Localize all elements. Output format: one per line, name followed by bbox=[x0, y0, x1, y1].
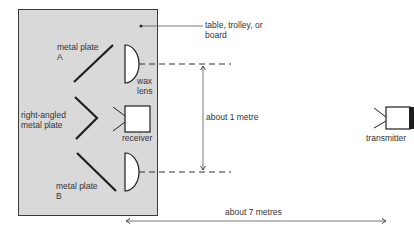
transmitter-label: transmitter bbox=[366, 134, 406, 144]
table-label-line2: board bbox=[205, 31, 262, 41]
transmitter-horn-top bbox=[374, 108, 386, 117]
one-metre-label: about 1 metre bbox=[206, 113, 258, 123]
metal-plate-b-label: metal plate B bbox=[56, 182, 98, 201]
transmitter-horn-bottom bbox=[374, 121, 386, 128]
seven-metres-label: about 7 metres bbox=[225, 208, 282, 218]
right-angled-plate-label: right-angled metal plate bbox=[21, 111, 66, 130]
plate-b-label-line1: metal plate bbox=[56, 182, 98, 192]
wax-lens-label: wax lens bbox=[137, 77, 153, 96]
transmitter-box bbox=[386, 107, 410, 129]
transmitter-back bbox=[409, 107, 414, 129]
right-angled-label-line2: metal plate bbox=[21, 121, 66, 131]
right-angled-metal-plate bbox=[75, 97, 97, 139]
wax-lens-b bbox=[125, 153, 139, 191]
plate-a-label-line1: metal plate bbox=[57, 43, 99, 53]
receiver-box bbox=[125, 106, 150, 132]
plate-b-label-line2: B bbox=[56, 192, 98, 202]
receiver-label: receiver bbox=[122, 134, 152, 144]
plate-a-label-line2: A bbox=[57, 53, 99, 63]
receiver-horn-bottom bbox=[113, 122, 125, 131]
table-label: table, trolley, or board bbox=[205, 21, 262, 40]
receiver-horn-top bbox=[113, 107, 125, 116]
wax-label-line2: lens bbox=[137, 87, 153, 97]
metal-plate-a-label: metal plate A bbox=[57, 43, 99, 62]
